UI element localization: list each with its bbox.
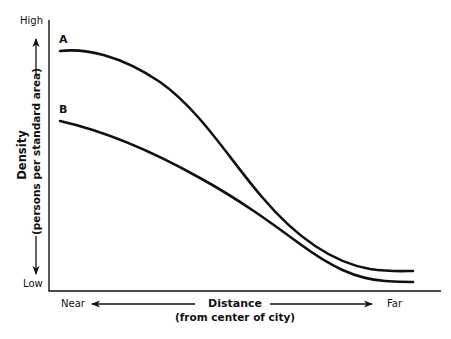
curve-b-label: B [59,103,67,116]
chart-canvas [0,0,451,339]
curve-b [60,121,413,282]
curve-a [60,50,413,271]
y-tick-low: Low [23,278,43,289]
y-tick-high: High [20,15,43,26]
x-axis-title: Distance [205,297,265,310]
x-tick-far: Far [387,298,402,309]
x-axis-subtitle: (from center of city) [175,311,295,323]
curve-a-label: A [59,33,68,46]
y-axis-title: Density [15,125,29,185]
y-axis-subtitle: (persons per standard area) [30,73,42,235]
x-tick-near: Near [61,298,85,309]
